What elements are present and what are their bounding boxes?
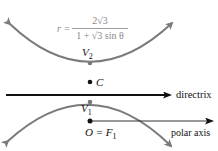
vertex-v1-dot [88,100,93,105]
equation-numerator: 2√3 [92,15,108,26]
origin-focus-dot [88,119,93,124]
label-c: C [96,76,104,88]
center-c-dot [88,80,93,85]
label-origin-focus: O = F1 [85,126,117,141]
vertex-v2-dot [88,61,93,66]
label-polar-axis: polar axis [171,127,210,138]
label-v2: V2 [82,46,93,61]
equation: r = 2√3 1 + √3 sin θ [57,15,128,41]
hyperbola-diagram: r = 2√3 1 + √3 sin θ V2 C V1 O = F1 dire… [0,0,218,151]
label-directrix: directrix [176,89,212,100]
equation-lhs: r = [57,23,70,34]
equation-denominator: 1 + √3 sin θ [76,30,124,41]
